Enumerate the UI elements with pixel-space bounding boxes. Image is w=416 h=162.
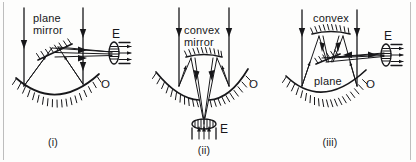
ray-diagram-svg: plane mirror bbox=[0, 0, 416, 162]
label-convex-iii: convex bbox=[313, 12, 349, 24]
eye-ii: E bbox=[192, 119, 228, 139]
concave-objective-mirror-i: O bbox=[13, 74, 111, 107]
label-objective-i: O bbox=[101, 78, 110, 90]
label-objective-iii: O bbox=[366, 78, 375, 90]
panel-iii: convex bbox=[283, 10, 404, 148]
eye-i: E bbox=[109, 27, 131, 64]
eye-hatching-iii bbox=[381, 49, 391, 62]
panel-i: plane mirror bbox=[13, 8, 132, 148]
plane-tertiary-mirror-iii: plane bbox=[314, 50, 342, 87]
reflected-rays-ii bbox=[179, 58, 229, 86]
rays-to-eye-ii bbox=[191, 58, 217, 124]
caption-panel-i: (i) bbox=[48, 136, 58, 148]
convex-secondary-mirror-iii bbox=[311, 25, 350, 35]
label-eye-iii: E bbox=[384, 29, 392, 43]
panel-ii: convex mirror bbox=[153, 8, 259, 156]
label-plane-mirror-line1: plane bbox=[33, 12, 61, 24]
caption-panel-ii: (ii) bbox=[198, 144, 210, 156]
label-eye-i: E bbox=[112, 27, 120, 41]
label-convex-mirror-line1: convex bbox=[184, 24, 220, 36]
convex-secondary-mirror-ii bbox=[185, 48, 223, 58]
figure-root: plane mirror bbox=[0, 0, 416, 162]
rays-to-eye-i bbox=[52, 47, 112, 62]
caption-panel-iii: (iii) bbox=[323, 136, 338, 148]
eye-hatching-i bbox=[109, 47, 119, 60]
label-eye-ii: E bbox=[220, 122, 228, 136]
label-convex-mirror-line2: mirror bbox=[184, 36, 214, 48]
objective-hatching-i bbox=[13, 77, 102, 107]
eye-iii: E bbox=[381, 29, 403, 66]
label-objective-ii: O bbox=[249, 78, 258, 90]
concave-objective-mirror-ii: O bbox=[153, 69, 259, 107]
label-plane-mirror-line2: mirror bbox=[33, 24, 63, 36]
label-plane-iii: plane bbox=[314, 75, 342, 87]
